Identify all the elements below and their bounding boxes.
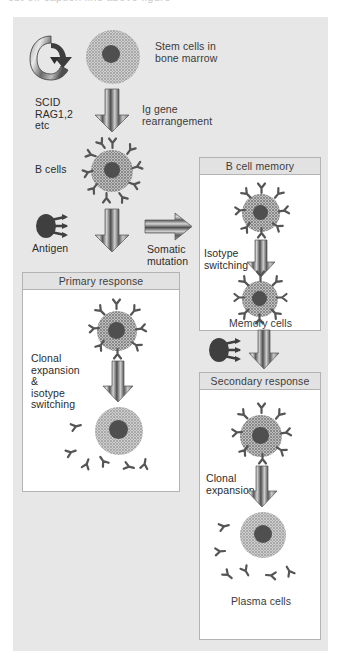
free-antibody (217, 520, 230, 533)
activated-b-cell-nucleus (108, 322, 125, 339)
primary-expansion-arrow (101, 361, 135, 403)
secondary-response-header: Secondary response (200, 373, 320, 390)
bcr-receptor (88, 323, 100, 335)
free-antibody (266, 570, 278, 582)
memory-cell-nucleus (252, 291, 267, 306)
free-antibody (79, 457, 93, 471)
cut-off-caption-strip: cut-off caption line above figure (0, 0, 341, 11)
clonal-expansion-isotype-label: Clonal expansion & isotype switching (31, 353, 80, 411)
stem-cells-label: Stem cells in bone marrow (155, 41, 217, 64)
somatic-mutation-label: Somatic mutation (147, 244, 188, 267)
secondary-plasma-cell-nucleus (254, 525, 272, 543)
bcr-receptor (128, 178, 142, 192)
free-antibody (69, 420, 82, 433)
bcr-receptor (112, 349, 123, 360)
free-antibody (282, 564, 297, 579)
caption-text: cut-off caption line above figure (8, 0, 171, 3)
bcr-receptor (233, 292, 244, 303)
bcr-receptor (107, 137, 118, 148)
antigen-icon-1 (35, 213, 69, 239)
free-antibody (214, 546, 226, 558)
primary-plasma-cell-nucleus (109, 420, 128, 439)
isotype-switching-label: Isotype switching (204, 248, 248, 271)
bcr-receptor (131, 160, 145, 174)
bcr-receptor (280, 426, 293, 439)
b-cell-memory-box: B cell memory Isotype switching (199, 157, 321, 331)
primary-response-header: Primary response (23, 273, 179, 290)
secondary-activated-nucleus (252, 427, 269, 444)
primary-response-box: Primary response Clonal expansion & isot… (22, 272, 180, 492)
free-antibody (238, 563, 253, 578)
scid-label: SCID RAG1,2 etc (35, 97, 73, 132)
b-cell-memory-title: B cell memory (226, 160, 294, 172)
figure-panel: Stem cells in bone marrow SCID RAG1,2 et… (13, 17, 328, 651)
bcr-receptor (256, 402, 267, 413)
bcr-receptor (257, 454, 268, 465)
bcr-receptor (111, 298, 122, 309)
bcr-receptor (277, 292, 288, 303)
bcr-receptor (234, 205, 246, 217)
self-renewal-arrow-icon (26, 30, 76, 84)
bcr-receptor (256, 228, 267, 239)
antigen-label: Antigen (32, 243, 68, 255)
free-antibody (63, 445, 77, 459)
bcr-receptor (231, 427, 243, 439)
free-antibody (96, 454, 111, 469)
secondary-plasma-cell (240, 512, 286, 558)
memory-precursor-nucleus (253, 205, 268, 220)
secondary-activation-arrow (247, 330, 281, 370)
b-cells-label: B cells (35, 164, 67, 176)
antigen-icon-2 (208, 337, 242, 363)
somatic-mutation-arrow (145, 212, 193, 242)
bcr-receptor (115, 190, 130, 205)
primary-plasma-cell (95, 407, 143, 455)
secondary-response-box: Secondary response Clonal expansion (199, 372, 321, 640)
free-antibody (220, 567, 235, 582)
bcr-receptor (278, 204, 291, 217)
free-antibody (138, 458, 151, 471)
free-antibody (122, 460, 135, 473)
stem-cell (86, 30, 140, 84)
bcr-receptor (256, 182, 267, 193)
bcr-receptor (255, 270, 266, 281)
memory-cells-label: Memory cells (229, 318, 292, 330)
b-cell-nucleus (104, 162, 120, 178)
activation-arrow-2 (93, 209, 131, 253)
bcr-receptor (101, 193, 112, 204)
differentiation-arrow-1 (93, 89, 131, 133)
primary-response-title: Primary response (59, 275, 144, 287)
secondary-expansion-arrow (245, 466, 279, 508)
stem-cell-nucleus (102, 45, 120, 63)
ig-gene-rearrangement-label: Ig gene rearrangement (142, 104, 212, 127)
secondary-response-title: Secondary response (210, 375, 309, 387)
bcr-receptor (135, 322, 148, 335)
b-cell-memory-header: B cell memory (200, 158, 320, 175)
plasma-cells-label: Plasma cells (231, 596, 291, 608)
